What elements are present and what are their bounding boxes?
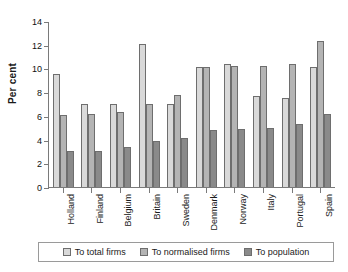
- bar: [110, 104, 117, 187]
- x-axis-tick-mark: [234, 188, 235, 193]
- bar-group: [49, 21, 78, 187]
- legend-label: To population: [256, 248, 310, 257]
- x-axis-label-cell: Spain: [306, 194, 335, 236]
- bar-groups: [49, 21, 335, 187]
- x-axis-tick-cell: [78, 188, 107, 193]
- bar-group: [163, 21, 192, 187]
- x-axis-tick-cell: [135, 188, 164, 193]
- x-axis-label: Denmark: [210, 194, 219, 231]
- x-axis-label: Portugal: [296, 194, 305, 228]
- x-axis-tick-mark: [206, 188, 207, 193]
- legend-entry[interactable]: To total firms: [63, 248, 126, 257]
- x-axis-tick-mark: [292, 188, 293, 193]
- bar: [181, 138, 188, 187]
- bar: [53, 74, 60, 187]
- y-axis-tick-mark: [44, 188, 48, 189]
- y-axis-tick-label: 14: [18, 18, 42, 27]
- bar: [153, 141, 160, 187]
- legend-swatch-icon: [140, 248, 148, 256]
- x-axis-tick-cell: [221, 188, 250, 193]
- bar: [260, 66, 267, 187]
- x-axis-labels: HollandFinlandBelgiumBritainSwedenDenmar…: [49, 194, 335, 236]
- bar: [174, 95, 181, 187]
- y-axis-tick-label: 2: [18, 160, 42, 169]
- bar: [210, 130, 217, 187]
- x-axis-tick-mark: [263, 188, 264, 193]
- bar: [139, 44, 146, 187]
- x-axis-tick-cell: [49, 188, 78, 193]
- bar: [167, 104, 174, 187]
- x-axis-tick-mark: [149, 188, 150, 193]
- bar: [238, 129, 245, 187]
- x-axis-label: Norway: [239, 194, 248, 225]
- x-axis-tick-mark: [120, 188, 121, 193]
- bar: [310, 67, 317, 187]
- x-axis-label: Italy: [267, 194, 276, 211]
- x-axis-tick-mark: [320, 188, 321, 193]
- bar-group: [192, 21, 221, 187]
- y-axis-tick-mark: [44, 164, 48, 165]
- x-axis-tick-mark: [177, 188, 178, 193]
- x-axis-label: Holland: [67, 194, 76, 225]
- x-axis-label-cell: Belgium: [106, 194, 135, 236]
- bar-group: [106, 21, 135, 187]
- legend-entry[interactable]: To normalised firms: [140, 248, 230, 257]
- grouped-bar-chart: Per cent 02468101214 HollandFinlandBelgi…: [0, 0, 348, 272]
- x-axis-label-cell: Finland: [78, 194, 107, 236]
- bar: [203, 67, 210, 187]
- y-axis-tick-mark: [44, 117, 48, 118]
- x-axis-label-cell: Denmark: [192, 194, 221, 236]
- bar: [117, 112, 124, 187]
- x-axis-label-cell: Italy: [249, 194, 278, 236]
- x-axis-label-cell: Norway: [221, 194, 250, 236]
- bar: [282, 98, 289, 187]
- legend-entry[interactable]: To population: [244, 248, 310, 257]
- bar: [196, 67, 203, 187]
- bar-group: [249, 21, 278, 187]
- bar: [267, 128, 274, 187]
- bar: [253, 96, 260, 187]
- x-axis-label: Sweden: [182, 194, 191, 227]
- x-axis-label: Belgium: [124, 194, 133, 227]
- x-axis-label-cell: Holland: [49, 194, 78, 236]
- y-axis-tick-label: 8: [18, 89, 42, 98]
- bar: [289, 64, 296, 187]
- chart-legend: To total firmsTo normalised firmsTo popu…: [38, 242, 334, 262]
- bar-group: [306, 21, 335, 187]
- bar: [60, 115, 67, 187]
- x-axis-label-cell: Britain: [135, 194, 164, 236]
- bar: [224, 64, 231, 187]
- x-axis-tick-cell: [106, 188, 135, 193]
- y-axis-tick-label: 10: [18, 65, 42, 74]
- y-axis-tick-label: 12: [18, 42, 42, 51]
- y-axis-tick-label: 0: [18, 184, 42, 193]
- bar: [81, 104, 88, 187]
- x-axis-tick-cell: [278, 188, 307, 193]
- x-axis-tick-cell: [163, 188, 192, 193]
- plot-area: 02468101214: [48, 22, 334, 188]
- bar-group: [135, 21, 164, 187]
- x-axis-label: Spain: [325, 194, 334, 217]
- bar: [146, 104, 153, 187]
- x-axis-label-cell: Sweden: [163, 194, 192, 236]
- y-axis-tick-mark: [44, 93, 48, 94]
- y-axis-tick-mark: [44, 46, 48, 47]
- x-axis-tick-cell: [249, 188, 278, 193]
- x-axis-tick-cell: [306, 188, 335, 193]
- x-axis-tick-mark: [63, 188, 64, 193]
- x-axis-tick-mark: [91, 188, 92, 193]
- legend-label: To normalised firms: [152, 248, 230, 257]
- x-axis-label: Britain: [153, 194, 162, 220]
- y-axis-title: Per cent: [7, 49, 18, 119]
- x-axis-tick-marks: [49, 188, 335, 193]
- bar: [231, 66, 238, 187]
- x-axis-label: Finland: [96, 194, 105, 224]
- y-axis-tick-mark: [44, 141, 48, 142]
- y-axis-tick-mark: [44, 69, 48, 70]
- bar: [67, 151, 74, 187]
- bar: [317, 41, 324, 187]
- x-axis-tick-cell: [192, 188, 221, 193]
- legend-swatch-icon: [244, 248, 252, 256]
- y-axis-tick-mark: [44, 22, 48, 23]
- bar: [88, 114, 95, 188]
